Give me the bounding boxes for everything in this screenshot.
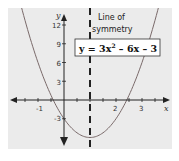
y-tick-label: -3	[54, 115, 61, 123]
x-tick-label: 3	[139, 105, 143, 113]
y-tick-label: 12	[52, 22, 61, 30]
equation-lhs: y = 3x	[78, 43, 112, 54]
symmetry-annotation-line1: Line of	[98, 13, 125, 22]
y-tick-label: 6	[57, 60, 62, 68]
y-axis-label: y	[55, 11, 61, 20]
x-axis-label: x	[164, 104, 169, 113]
equation-rhs: – 6x – 3	[116, 43, 158, 54]
x-tick-label: -1	[36, 105, 43, 113]
plot-background	[8, 8, 172, 149]
equation-label: y = 3x2 – 6x – 3	[75, 39, 160, 56]
y-tick-label: 9	[57, 41, 61, 49]
y-tick-label: 3	[57, 79, 61, 87]
svg-text:y = 3x2 – 6x – 3: y = 3x2 – 6x – 3	[78, 42, 157, 54]
x-tick-label: 2	[113, 105, 117, 113]
symmetry-annotation-line2: symmetry	[92, 25, 133, 34]
parabola-chart: -1 2 3 x 12 9 6 3 -3 y Line of symmetry …	[0, 0, 179, 161]
